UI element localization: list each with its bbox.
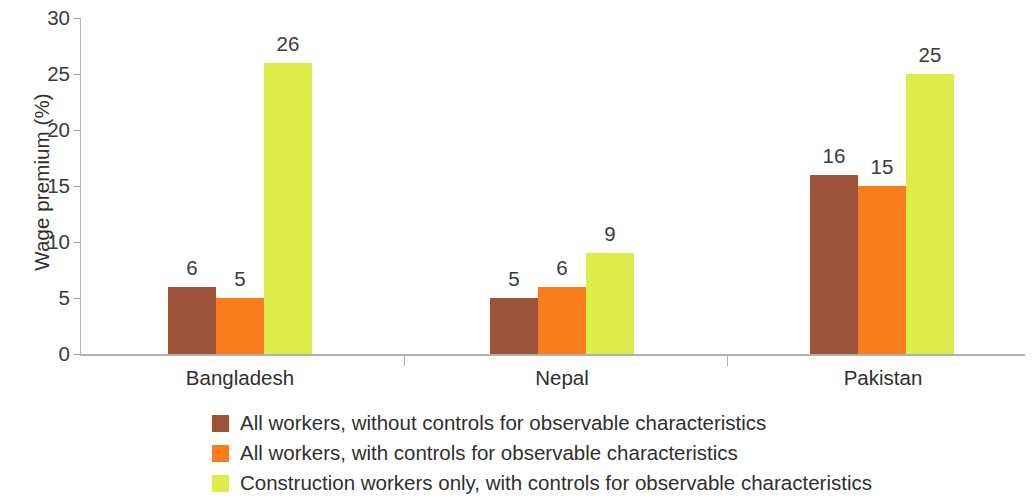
x-axis-label-bangladesh: Bangladesh [110, 366, 370, 390]
legend-swatch-icon-3 [212, 475, 229, 492]
bar-value-label-bangladesh-series-3: 26 [258, 34, 318, 55]
bar-value-label-nepal-series-3: 9 [580, 224, 640, 245]
legend-swatch-icon-1 [212, 415, 229, 432]
legend-label-2: All workers, with controls for observabl… [240, 443, 738, 464]
x-axis-tick-1 [404, 355, 405, 366]
bar-value-label-bangladesh-series-2: 5 [210, 269, 270, 290]
chart-page: Wage premium (%) 051015202530 6526569161… [0, 0, 1034, 501]
bar-value-label-pakistan-series-2: 15 [852, 157, 912, 178]
bar-nepal-series-2 [538, 287, 586, 354]
legend-item-1[interactable]: All workers, without controls for observ… [212, 408, 1032, 438]
x-axis-label-nepal: Nepal [432, 366, 692, 390]
bar-bangladesh-series-2 [216, 298, 264, 354]
bar-chart-plot-area: Wage premium (%) 051015202530 6526569161… [0, 0, 1034, 400]
legend-item-2[interactable]: All workers, with controls for observabl… [212, 438, 1032, 468]
chart-legend: All workers, without controls for observ… [212, 408, 1032, 498]
legend-label-1: All workers, without controls for observ… [240, 413, 766, 434]
bar-bangladesh-series-3 [264, 63, 312, 354]
bar-pakistan-series-1 [810, 175, 858, 354]
bar-nepal-series-3 [586, 253, 634, 354]
x-axis-tick-2 [727, 355, 728, 366]
legend-item-3[interactable]: Construction workers only, with controls… [212, 468, 1032, 498]
bar-pakistan-series-2 [858, 186, 906, 354]
bar-bangladesh-series-1 [168, 287, 216, 354]
x-axis-line [80, 354, 1025, 356]
bar-value-label-nepal-series-2: 6 [532, 258, 592, 279]
bar-pakistan-series-3 [906, 74, 954, 354]
legend-label-3: Construction workers only, with controls… [240, 473, 872, 494]
bar-value-label-pakistan-series-3: 25 [900, 45, 960, 66]
legend-swatch-icon-2 [212, 445, 229, 462]
bar-nepal-series-1 [490, 298, 538, 354]
x-axis-label-pakistan: Pakistan [753, 366, 1013, 390]
